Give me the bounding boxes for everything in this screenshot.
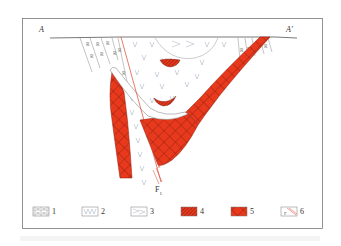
caption-illegible: [20, 236, 320, 241]
section-label-a-prime: A': [286, 25, 293, 34]
svg-text:R: R: [90, 53, 94, 59]
left-wallrock-symbols: RRR RRRR R: [86, 40, 126, 76]
svg-text:R: R: [264, 43, 268, 49]
legend-swatch-3: [131, 207, 147, 216]
legend-num-5: 5: [250, 207, 254, 216]
svg-text:R: R: [86, 41, 90, 47]
legend-swatch-1: [33, 207, 49, 216]
legend-num-2: 2: [101, 207, 105, 216]
svg-text:R: R: [122, 70, 126, 76]
section-label-a: A: [39, 25, 44, 34]
legend-num-1: 1: [52, 207, 56, 216]
svg-text:R: R: [106, 40, 110, 46]
legend-num-6: 6: [300, 207, 304, 216]
fault-label-subscript: 1: [159, 191, 162, 196]
svg-text:R: R: [113, 50, 117, 56]
legend-swatch-5: [231, 207, 247, 216]
svg-text:R: R: [240, 47, 244, 53]
geological-cross-section-figure: RRR RRRR R RRRR: [0, 0, 341, 246]
lower-hatched-lens: [154, 96, 176, 106]
svg-text:F: F: [284, 211, 287, 216]
legend-num-4: 4: [200, 207, 204, 216]
svg-text:R: R: [118, 47, 122, 53]
legend-num-3: 3: [150, 207, 154, 216]
svg-text:R: R: [96, 41, 100, 47]
svg-text:R: R: [100, 51, 104, 57]
upper-hatched-lens: [160, 59, 180, 67]
fault-label: F1: [155, 185, 162, 196]
legend: [33, 207, 297, 216]
legend-swatch-4: [181, 207, 197, 216]
